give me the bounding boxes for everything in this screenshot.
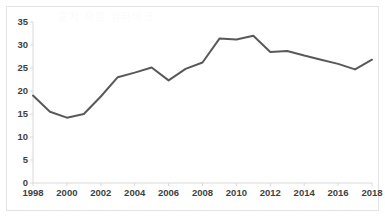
x-tick-label: 2018: [361, 187, 382, 198]
x-tick-label: 2000: [56, 187, 77, 198]
x-tick-label: 2008: [192, 187, 213, 198]
x-tick-label: 2014: [294, 187, 315, 198]
x-tick-label: 2016: [328, 187, 349, 198]
x-tick-label: 2010: [226, 187, 247, 198]
y-tick-label: 20: [4, 86, 28, 96]
x-tick-label: 2004: [124, 187, 145, 198]
y-tick-label: 10: [4, 132, 28, 142]
x-tick-label: 1998: [22, 187, 43, 198]
y-tick-label: 5: [4, 155, 28, 165]
chart-figure: 출처 자료 워터마크 05101520253035 19982000200220…: [0, 0, 385, 223]
x-tick-label: 2002: [90, 187, 111, 198]
x-tick-label: 2012: [260, 187, 281, 198]
x-tick-label: 2006: [158, 187, 179, 198]
y-tick-label: 35: [4, 17, 28, 27]
y-tick-label: 25: [4, 63, 28, 73]
data-series-line: [33, 36, 372, 118]
y-tick-label: 30: [4, 40, 28, 50]
axis-lines: [33, 22, 372, 183]
y-tick-label: 15: [4, 109, 28, 119]
